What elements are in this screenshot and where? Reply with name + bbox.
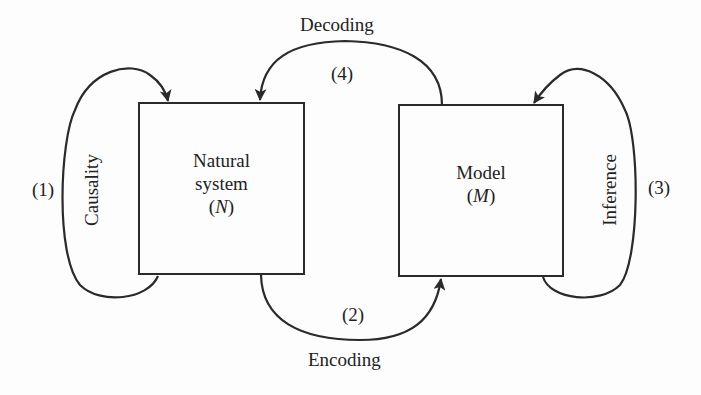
model-line1: Model bbox=[400, 161, 562, 184]
causality-label: Causality bbox=[81, 150, 103, 230]
encoding-number: (2) bbox=[342, 304, 364, 326]
model-box: Model (M) bbox=[398, 104, 564, 277]
causality-number: (1) bbox=[32, 179, 54, 201]
connector-arrows bbox=[0, 0, 701, 395]
natural-system-line1: Natural bbox=[140, 149, 303, 172]
inference-label: Inference bbox=[599, 150, 621, 230]
model-symbol: (M) bbox=[400, 184, 562, 207]
natural-system-box: Natural system (N) bbox=[138, 102, 305, 275]
natural-system-symbol: (N) bbox=[140, 195, 303, 218]
inference-number: (3) bbox=[648, 177, 670, 199]
modeling-relation-diagram: Natural system (N) Model (M) Decoding (4… bbox=[0, 0, 701, 395]
natural-system-line2: system bbox=[140, 172, 303, 195]
decoding-number: (4) bbox=[331, 63, 353, 85]
encoding-label: Encoding bbox=[308, 349, 381, 371]
decoding-label: Decoding bbox=[300, 14, 374, 36]
